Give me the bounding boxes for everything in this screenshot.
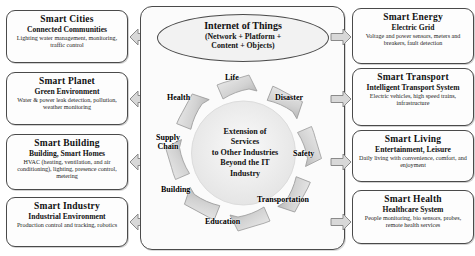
iot-title: Internet of Things xyxy=(158,20,328,32)
card-subtitle: Electric Grid xyxy=(357,23,469,32)
arrow-right-icon xyxy=(330,89,352,109)
iot-subtitle-line2: Content + Objects) xyxy=(158,41,328,50)
cycle-label-disaster: Disaster xyxy=(275,93,303,102)
card-smart-planet[interactable]: Smart Planet Green Environment Water & p… xyxy=(6,72,128,125)
iot-subtitle-line1: (Network + Platform + xyxy=(158,32,328,41)
cycle-label-health: Health xyxy=(167,93,190,102)
cycle-label-building: Building xyxy=(161,185,190,194)
card-smart-building[interactable]: Smart Building Building, Smart Homes HVA… xyxy=(6,134,128,190)
right-domain-column: Smart Energy Electric Grid Voltage and p… xyxy=(352,0,474,256)
card-detail: Daily living with convenience, comfort, … xyxy=(357,155,469,169)
card-title: Smart Cities xyxy=(11,14,123,25)
card-title: Smart Industry xyxy=(11,201,123,212)
card-smart-industry[interactable]: Smart Industry Industrial Environment Pr… xyxy=(6,197,128,247)
core-line-2: Services xyxy=(212,137,278,147)
card-smart-energy[interactable]: Smart Energy Electric Grid Voltage and p… xyxy=(352,8,474,64)
card-smart-living[interactable]: Smart Living Entertainment, Leisure Dail… xyxy=(352,130,474,182)
card-smart-health[interactable]: Smart Health Healthcare System People mo… xyxy=(352,190,474,244)
card-title: Smart Planet xyxy=(11,76,123,87)
card-subtitle: Healthcare System xyxy=(357,205,469,214)
card-detail: Lighting water management, monitoring, t… xyxy=(11,35,123,49)
core-line-5: Industry xyxy=(212,169,278,179)
card-smart-cities[interactable]: Smart Cities Connected Communities Light… xyxy=(6,10,128,63)
card-subtitle: Industrial Environment xyxy=(11,212,123,221)
card-title: Smart Building xyxy=(11,138,123,149)
card-smart-transport[interactable]: Smart Transport Intelligent Transport Sy… xyxy=(352,68,474,126)
iot-header-ellipse: Internet of Things (Network + Platform +… xyxy=(157,14,329,62)
core-line-1: Extension of xyxy=(212,127,278,137)
card-detail: HVAC (heating, ventilation, and air cond… xyxy=(11,159,123,181)
arrow-right-icon xyxy=(330,212,352,232)
card-detail: Production control and tracking, robotic… xyxy=(11,222,123,229)
card-title: Smart Energy xyxy=(357,12,469,23)
card-detail: People monitoring, bio sensors, probes, … xyxy=(357,215,469,229)
card-detail: Electric vehicles, high speed trains, in… xyxy=(357,93,469,107)
core-line-3: to Other Industries xyxy=(212,148,278,158)
core-line-4: Beyond the IT xyxy=(212,158,278,168)
card-title: Smart Living xyxy=(357,134,469,145)
left-domain-column: Smart Cities Connected Communities Light… xyxy=(6,0,128,256)
iot-center-panel: Internet of Things (Network + Platform +… xyxy=(140,6,345,250)
card-title: Smart Transport xyxy=(357,72,469,83)
card-subtitle: Green Environment xyxy=(11,87,123,96)
card-subtitle: Intelligent Transport System xyxy=(357,83,469,92)
card-detail: Voltage and power sensors, meters and br… xyxy=(357,33,469,47)
card-detail: Water & power leak detection, pollution,… xyxy=(11,97,123,111)
cycle-label-life: Life xyxy=(225,73,239,82)
cycle-label-education: Education xyxy=(205,217,240,226)
card-subtitle: Building, Smart Homes xyxy=(11,149,123,158)
card-subtitle: Entertainment, Leisure xyxy=(357,145,469,154)
arrow-right-icon xyxy=(330,152,352,172)
cycle-label-supply-chain: Supply Chain xyxy=(148,133,188,151)
cycle-label-transportation: Transportation xyxy=(257,195,309,204)
core-statement: Extension of Services to Other Industrie… xyxy=(189,105,301,201)
service-cycle-ring: Extension of Services to Other Industrie… xyxy=(145,65,342,245)
cycle-label-safety: Safety xyxy=(293,149,314,158)
card-title: Smart Health xyxy=(357,194,469,205)
card-subtitle: Connected Communities xyxy=(11,25,123,34)
diagram-canvas: Smart Cities Connected Communities Light… xyxy=(0,0,475,256)
arrow-right-icon xyxy=(330,27,352,47)
